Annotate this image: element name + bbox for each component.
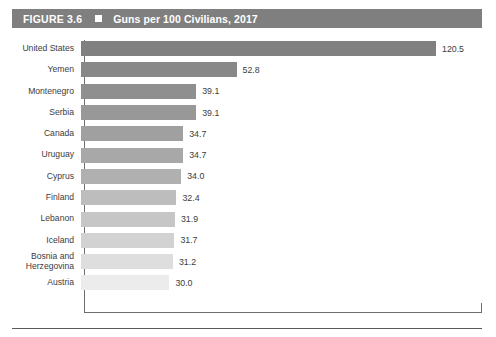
bar-value-label: 34.7 [189, 129, 206, 139]
bar-track: 34.7 [81, 123, 496, 144]
bar-category-label: Lebanon [0, 214, 78, 223]
bar-category-label: Cyprus [0, 172, 78, 181]
x-axis-line [84, 312, 482, 313]
bar-value-label: 31.9 [181, 214, 198, 224]
bar-track: 39.1 [81, 102, 496, 123]
bar-track: 52.8 [81, 59, 496, 80]
bar-track: 31.7 [81, 230, 496, 251]
bar-row: Cyprus34.0 [0, 166, 496, 187]
bar-row: Iceland31.7 [0, 230, 496, 251]
bar-category-label: Montenegro [0, 87, 78, 96]
bar-value-label: 30.0 [175, 278, 192, 288]
bar [81, 105, 196, 120]
bar-row: Uruguay34.7 [0, 144, 496, 165]
bar-category-label: Finland [0, 193, 78, 202]
bar-category-label: Uruguay [0, 150, 78, 159]
bar [81, 190, 176, 205]
bar-value-label: 32.4 [182, 193, 199, 203]
bar-value-label: 34.0 [187, 171, 204, 181]
bar-track: 34.0 [81, 166, 496, 187]
bar [81, 62, 237, 77]
bar-track: 30.0 [81, 272, 496, 293]
bar [81, 212, 175, 227]
bar-track: 31.2 [81, 251, 496, 272]
bar-category-label: United States [0, 44, 78, 53]
bar-value-label: 34.7 [189, 150, 206, 160]
bar-row: Yemen52.8 [0, 59, 496, 80]
bar-track: 39.1 [81, 81, 496, 102]
figure-number-label: FIGURE 3.6 [23, 13, 82, 25]
bar-value-label: 39.1 [202, 86, 219, 96]
bar-value-label: 120.5 [442, 44, 464, 54]
bar-category-label: Yemen [0, 65, 78, 74]
bar-value-label: 31.2 [179, 257, 196, 267]
bar-category-label: Iceland [0, 236, 78, 245]
bar [81, 41, 436, 56]
bar-rows: United States120.5Yemen52.8Montenegro39.… [0, 38, 496, 294]
bar-track: 120.5 [81, 38, 496, 59]
bar-row: Lebanon31.9 [0, 208, 496, 229]
bar-category-label: Bosnia and Herzegovina [0, 252, 78, 271]
bar-row: Serbia39.1 [0, 102, 496, 123]
x-axis-end-tick [481, 303, 482, 313]
bar [81, 254, 173, 269]
bar [81, 148, 183, 163]
bar-value-label: 39.1 [202, 108, 219, 118]
bar [81, 84, 196, 99]
figure-title: Guns per 100 Civilians, 2017 [113, 13, 258, 25]
bar-row: Bosnia and Herzegovina31.2 [0, 251, 496, 272]
chart-plot-area: United States120.5Yemen52.8Montenegro39.… [0, 38, 496, 310]
bar-category-label: Austria [0, 278, 78, 287]
bar-row: Canada34.7 [0, 123, 496, 144]
bar [81, 275, 169, 290]
bar-track: 32.4 [81, 187, 496, 208]
figure-bottom-rule [12, 328, 482, 329]
bar-row: Austria30.0 [0, 272, 496, 293]
bar-category-label: Canada [0, 129, 78, 138]
bar-track: 31.9 [81, 208, 496, 229]
bar-row: Finland32.4 [0, 187, 496, 208]
bar-category-label: Serbia [0, 108, 78, 117]
bar-value-label: 31.7 [180, 235, 197, 245]
bar [81, 233, 174, 248]
figure-title-banner: FIGURE 3.6 Guns per 100 Civilians, 2017 [12, 9, 482, 28]
bar-value-label: 52.8 [243, 65, 260, 75]
bar-row: United States120.5 [0, 38, 496, 59]
bar-track: 34.7 [81, 144, 496, 165]
figure-container: FIGURE 3.6 Guns per 100 Civilians, 2017 … [0, 0, 496, 337]
bar [81, 126, 183, 141]
bar-row: Montenegro39.1 [0, 81, 496, 102]
square-bullet-icon [95, 15, 102, 22]
bar [81, 169, 181, 184]
